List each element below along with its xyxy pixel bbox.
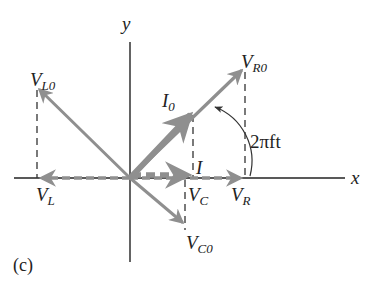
vl-label: VL (36, 185, 55, 207)
vc0-label: VC0 (186, 233, 213, 255)
i0-phasor (132, 116, 189, 176)
phasor-diagram: y x VR0 I0 VL0 VC0 VR I VL VC 2πft (c) (0, 0, 371, 285)
y-axis-label: y (122, 14, 130, 33)
vl0-label: VL0 (30, 70, 55, 92)
angle-label: 2πft (250, 132, 281, 151)
vc-label: VC (188, 185, 208, 207)
vr0-label: VR0 (241, 52, 267, 74)
vc0-phasor (130, 178, 182, 222)
i-label: I (196, 158, 202, 180)
vr-label: VR (231, 185, 251, 207)
angle-arc (215, 107, 252, 176)
i0-label: I0 (162, 91, 175, 113)
vl0-phasor (40, 90, 130, 178)
x-axis-label: x (351, 168, 359, 187)
panel-label: (c) (13, 256, 33, 274)
phasors (40, 71, 241, 222)
